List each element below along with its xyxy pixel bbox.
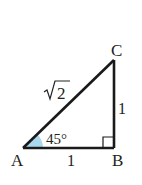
side-ac — [23, 60, 114, 148]
side-label-ac: 2 — [44, 81, 70, 103]
vertex-label-b: B — [112, 151, 123, 170]
right-angle-marker-b — [103, 137, 114, 148]
side-label-bc: 1 — [118, 100, 126, 117]
vertex-label-c: C — [111, 41, 122, 60]
side-label-ab: 1 — [67, 152, 75, 169]
triangle-diagram: A B C 1 1 2 45° — [0, 0, 142, 185]
radicand: 2 — [57, 84, 66, 103]
angle-label-a: 45° — [46, 131, 67, 147]
vertex-label-a: A — [11, 151, 24, 170]
